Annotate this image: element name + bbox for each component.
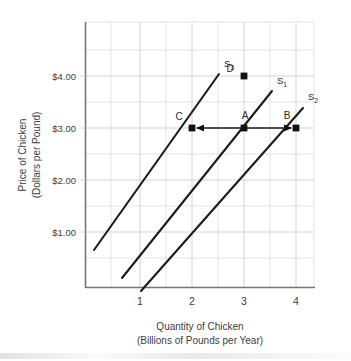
curve-label-S1-sub: 1 (283, 81, 287, 88)
curve-label-S1: S1 (277, 75, 287, 88)
xtick-label-3: 3 (241, 295, 247, 307)
arrow-head-left (196, 125, 204, 132)
supply-curve-chart: $4.00 $3.00 $2.00 $1.00 1 2 3 4 Quantity… (0, 0, 351, 361)
data-point-label-A: A (242, 110, 249, 121)
y-axis-title: Price of Chicken (17, 119, 28, 192)
y-axis-subtitle: (Dollars per Pound) (31, 112, 42, 199)
data-point-A (241, 125, 248, 132)
ytick-label-1: $1.00 (52, 227, 76, 238)
curve-label-S2-sub: 2 (314, 97, 318, 104)
data-point-label-B: B (284, 110, 291, 121)
xtick-label-2: 2 (189, 295, 195, 307)
x-axis-title: Quantity of Chicken (156, 321, 243, 332)
xtick-label-1: 1 (137, 295, 143, 307)
chart-svg: $4.00 $3.00 $2.00 $1.00 1 2 3 4 Quantity… (0, 0, 351, 361)
data-point-C (189, 125, 196, 132)
svg-text:S1: S1 (277, 75, 287, 88)
ytick-label-3: $3.00 (52, 123, 76, 134)
axes (85, 22, 315, 288)
data-point-B (293, 125, 300, 132)
ytick-label-4: $4.00 (52, 71, 76, 82)
data-point-label-D: D (226, 63, 233, 74)
xtick-label-4: 4 (293, 295, 299, 307)
x-axis-subtitle: (Billions of Pounds per Year) (137, 335, 263, 346)
vertical-gridlines (111, 22, 296, 287)
ytick-label-2: $2.00 (52, 175, 76, 186)
curve-S2 (141, 108, 303, 291)
data-point-label-C: C (175, 111, 182, 122)
data-point-D (241, 73, 248, 80)
curve-S1 (122, 91, 272, 278)
page-scan-artifact (0, 353, 351, 359)
